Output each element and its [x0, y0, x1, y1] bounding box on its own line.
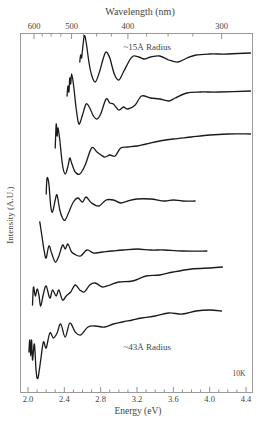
- top-tick-label: 500: [65, 21, 78, 31]
- plot-frame: [21, 34, 253, 393]
- x-tick-label: 4.4: [241, 394, 252, 404]
- top-axis-title: Wavelength (nm): [105, 6, 174, 18]
- y-axis-title: Intensity (A.U.): [5, 186, 15, 243]
- spectrum-curve: [55, 124, 250, 175]
- wavelength-axis: 600500400300: [28, 21, 228, 39]
- x-axis-title: Energy (eV): [114, 406, 161, 417]
- spectrum-curve: [46, 178, 195, 221]
- x-tick-label: 2.0: [23, 394, 34, 404]
- x-tick-label: 3.6: [168, 394, 179, 404]
- spectra-curves: [29, 36, 251, 379]
- chart-annotation: ~15Å Radius: [123, 42, 171, 52]
- x-tick-label: 2.4: [59, 394, 70, 404]
- absorption-spectra-chart: Wavelength (nm) 600500400300 2.02.42.83.…: [0, 0, 261, 423]
- chart-annotations: ~15Å Radius~43Å Radius10K: [123, 42, 246, 378]
- x-tick-label: 4.0: [204, 394, 215, 404]
- x-tick-label: 2.8: [95, 394, 106, 404]
- spectrum-curve: [33, 267, 223, 306]
- spectrum-curve: [40, 222, 207, 262]
- x-tick-label: 3.2: [132, 394, 143, 404]
- top-tick-label: 300: [215, 21, 228, 31]
- chart-annotation: ~43Å Radius: [123, 342, 171, 352]
- top-tick-label: 400: [122, 21, 135, 31]
- chart-annotation: 10K: [232, 369, 246, 378]
- energy-axis: 2.02.42.83.23.64.04.4: [23, 387, 252, 404]
- top-tick-label: 600: [28, 21, 41, 31]
